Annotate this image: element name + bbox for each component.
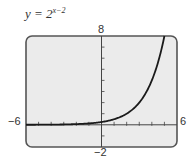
graph-screen [0,0,194,166]
